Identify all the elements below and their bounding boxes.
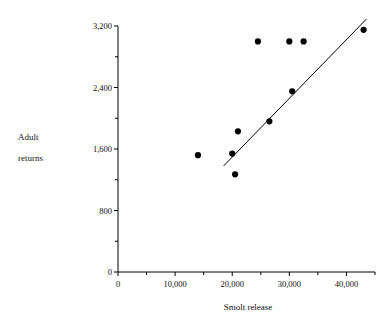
data-point <box>360 27 366 33</box>
data-points <box>195 27 367 178</box>
axis-lines <box>118 26 375 272</box>
data-point <box>266 118 272 124</box>
data-point <box>195 152 201 158</box>
x-axis-tick-label: 30,000 <box>278 280 301 289</box>
y-axis-tick-label: 800 <box>76 206 112 215</box>
y-axis-tick-label: 3,200 <box>76 22 112 31</box>
data-point <box>289 88 295 94</box>
y-axis-tick-label: 0 <box>76 268 112 277</box>
data-point <box>255 38 261 44</box>
scatter-plot <box>0 0 385 326</box>
data-point <box>301 38 307 44</box>
y-axis-title-line-2: returns <box>18 154 43 164</box>
x-axis-ticks <box>118 272 375 276</box>
y-axis-tick-label: 2,400 <box>76 83 112 92</box>
y-axis-title: Adult returns <box>18 133 43 164</box>
plot-canvas <box>0 0 385 326</box>
data-point <box>232 171 238 177</box>
chart-figure: 08001,6002,4003,200 010,00020,00030,0004… <box>0 0 385 326</box>
data-point <box>286 38 292 44</box>
data-point <box>229 151 235 157</box>
x-axis-tick-label: 10,000 <box>163 280 186 289</box>
x-axis-title: Smolt release <box>224 303 273 313</box>
x-axis-tick-label: 20,000 <box>221 280 244 289</box>
y-axis-ticks <box>114 26 118 272</box>
data-point <box>235 128 241 134</box>
x-axis-tick-label: 40,000 <box>335 280 358 289</box>
y-axis-tick-label: 1,600 <box>76 145 112 154</box>
x-axis-tick-label: 0 <box>116 280 120 289</box>
y-axis-title-line-1: Adult <box>18 133 43 143</box>
